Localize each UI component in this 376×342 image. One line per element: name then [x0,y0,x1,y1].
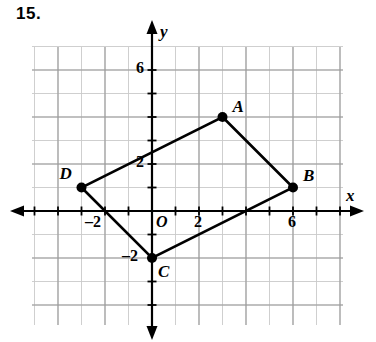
y-tick-label-neg2: –2 [122,247,138,265]
coordinate-plane-figure [0,0,376,342]
origin-label: O [156,213,168,231]
y-axis-label: y [160,22,168,42]
x-tick-label-2: 2 [194,213,202,231]
y-tick-label-6: 6 [136,59,144,77]
x-axis-label: x [346,186,355,206]
point-label-D: D [60,164,72,184]
point-label-B: B [303,166,314,186]
worksheet-figure-page: 15. yxO–226–226ABCD [0,0,376,342]
point-label-C: C [158,262,169,282]
point-label-A: A [233,97,244,117]
y-tick-label-2: 2 [136,153,144,171]
x-tick-label-6: 6 [288,213,296,231]
x-tick-label-neg2: –2 [85,213,101,231]
